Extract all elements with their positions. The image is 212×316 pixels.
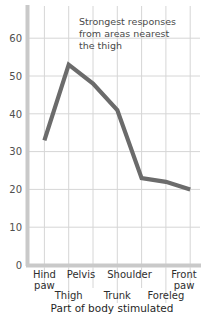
y-tick-20: 20 bbox=[9, 184, 22, 195]
x-axis-title: Part of body stimulated bbox=[51, 302, 174, 314]
x-axis-tick-labels-upper: Hind paw Pelvis Shoulder Front paw bbox=[33, 269, 197, 291]
x-tick-front-paw-line1: Front bbox=[171, 269, 196, 280]
x-axis-tick-labels-lower: Thigh Trunk Foreleg bbox=[54, 290, 185, 301]
x-tick-hind-paw-line2: paw bbox=[34, 280, 55, 291]
annotation-line-2: from areas nearest bbox=[79, 28, 169, 39]
y-tick-30: 30 bbox=[9, 146, 22, 157]
x-tick-hind-paw-line1: Hind bbox=[33, 269, 56, 280]
annotation-line-3: the thigh bbox=[79, 40, 122, 51]
y-tick-40: 40 bbox=[9, 109, 22, 120]
y-axis-tick-labels: 60 50 40 30 20 10 0 bbox=[9, 33, 22, 271]
y-tick-60: 60 bbox=[9, 33, 22, 44]
chart-canvas: 60 50 40 30 20 10 0 Strongest responses … bbox=[0, 0, 212, 316]
y-tick-50: 50 bbox=[9, 71, 22, 82]
y-tick-10: 10 bbox=[9, 222, 22, 233]
x-tick-foreleg: Foreleg bbox=[147, 290, 184, 301]
x-tick-shoulder: Shoulder bbox=[107, 269, 152, 280]
x-tick-pelvis: Pelvis bbox=[67, 269, 96, 280]
line-chart: 60 50 40 30 20 10 0 Strongest responses … bbox=[0, 0, 212, 316]
annotation-line-1: Strongest responses bbox=[79, 16, 176, 27]
x-tick-thigh: Thigh bbox=[54, 290, 83, 301]
x-tick-trunk: Trunk bbox=[103, 290, 131, 301]
y-tick-0: 0 bbox=[16, 260, 22, 271]
